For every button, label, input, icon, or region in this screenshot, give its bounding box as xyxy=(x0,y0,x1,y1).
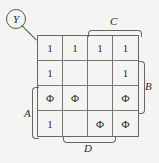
cell-r1-c3: 1 xyxy=(113,61,138,86)
variable-c-label: C xyxy=(110,15,117,27)
cell-r0-c0: 1 xyxy=(38,36,63,61)
variable-c-bracket xyxy=(88,30,142,37)
cell-r2-c1: Φ xyxy=(63,86,88,111)
cell-r0-c1: 1 xyxy=(63,36,88,61)
variable-a-bracket xyxy=(32,87,39,139)
output-label: Y xyxy=(13,13,19,25)
kmap-grid: 1 1 1 1 1 1 Φ Φ Φ 1 Φ Φ xyxy=(37,35,139,137)
cell-r3-c2: Φ xyxy=(88,111,113,136)
cell-r2-c0: Φ xyxy=(38,86,63,111)
output-label-connector xyxy=(21,25,37,41)
variable-d-label: D xyxy=(84,142,92,154)
variable-b-bracket xyxy=(138,61,145,114)
cell-r2-c2 xyxy=(88,86,113,111)
variable-b-label: B xyxy=(145,80,152,92)
cell-r1-c1 xyxy=(63,61,88,86)
cell-r3-c1 xyxy=(63,111,88,136)
cell-r1-c2 xyxy=(88,61,113,86)
cell-r0-c3: 1 xyxy=(113,36,138,61)
cell-r0-c2: 1 xyxy=(88,36,113,61)
variable-a-label: A xyxy=(24,107,31,119)
cell-r3-c3: Φ xyxy=(113,111,138,136)
cell-r2-c3: Φ xyxy=(113,86,138,111)
cell-r3-c0: 1 xyxy=(38,111,63,136)
cell-r1-c0: 1 xyxy=(38,61,63,86)
